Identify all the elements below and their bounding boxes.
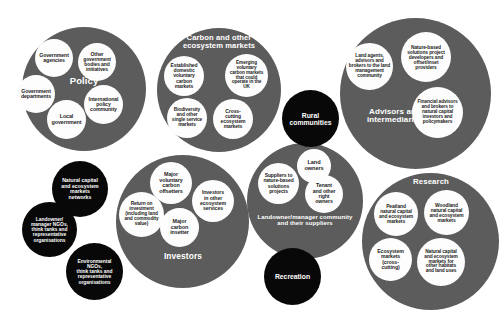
diagram-canvas: Rural communitiesNatural capital and eco… (0, 0, 503, 319)
node-research-1[interactable]: Woodland natural capital and ecosystem m… (424, 190, 469, 235)
cluster-environmental-ngos[interactable]: Environmental NGOs, think tanks and repr… (66, 243, 123, 300)
node-landowner-community-2[interactable]: Tenant and other right owners (305, 175, 343, 213)
cluster-label-recreation: Recreation (264, 273, 321, 280)
node-policy-4[interactable]: Local government (47, 100, 86, 139)
node-policy-2[interactable]: Government departments (17, 75, 55, 113)
node-policy-0[interactable]: Government agencies (35, 39, 73, 77)
node-advisors-1[interactable]: Nature-based solutions project developer… (401, 32, 451, 82)
node-policy-3[interactable]: International policy community (84, 85, 123, 124)
cluster-label-rural-communities: Rural communities (282, 111, 339, 126)
node-research-0[interactable]: Peatland natural capital and ecosystem m… (374, 192, 418, 236)
node-carbon-markets-1[interactable]: Emerging voluntary carbon markets that c… (225, 54, 268, 97)
node-advisors-2[interactable]: Financial advisors and brokers to natura… (412, 87, 463, 138)
cluster-label-landowner-ngos: Landowner/ manager NGOs, think tanks and… (22, 216, 77, 242)
cluster-landowner-ngos[interactable]: Landowner/ manager NGOs, think tanks and… (22, 202, 77, 257)
node-research-2[interactable]: Ecosystem markets (cross- cutting) (369, 238, 412, 281)
node-carbon-markets-3[interactable]: Cross- cutting ecosystem markets (213, 99, 253, 139)
cluster-rural-communities[interactable]: Rural communities (282, 90, 339, 147)
node-investors-1[interactable]: Investors in other ecosystem services (192, 180, 234, 222)
node-carbon-markets-2[interactable]: Biodiversity and other single service ma… (167, 98, 207, 138)
cluster-label-natural-capital-networks: Natural capital and ecosystem markets ne… (52, 178, 108, 200)
node-advisors-0[interactable]: Land agents, advisors and brokers to the… (346, 43, 393, 90)
node-investors-2[interactable]: Return on investment (including land and… (119, 192, 164, 237)
node-policy-1[interactable]: Other government bodies and initiatives (78, 43, 116, 81)
node-research-3[interactable]: Natural capital and ecosystem markets fo… (417, 238, 465, 286)
node-carbon-markets-0[interactable]: Established domestic voluntary carbon ma… (164, 56, 204, 96)
node-investors-3[interactable]: Major carbon insetter (160, 208, 199, 247)
cluster-recreation[interactable]: Recreation (264, 248, 321, 305)
cluster-label-environmental-ngos: Environmental NGOs, think tanks and repr… (66, 258, 123, 284)
node-landowner-community-1[interactable]: Suppliers to nature-based solutions proj… (258, 163, 299, 204)
